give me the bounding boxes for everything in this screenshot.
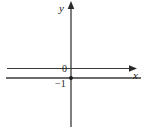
origin-label: 0 (62, 64, 67, 74)
math-figure-coordinate-plane: y x 0 −1 (0, 0, 145, 127)
y-axis-arrowhead-icon (68, 1, 75, 9)
coordinate-plane-svg (0, 0, 145, 127)
x-axis (7, 65, 137, 72)
y-tick-label-minus-one: −1 (55, 79, 66, 89)
intersection-point-marker (69, 76, 73, 80)
x-axis-label: x (133, 70, 138, 81)
y-axis (68, 1, 75, 127)
y-axis-label: y (59, 3, 64, 14)
